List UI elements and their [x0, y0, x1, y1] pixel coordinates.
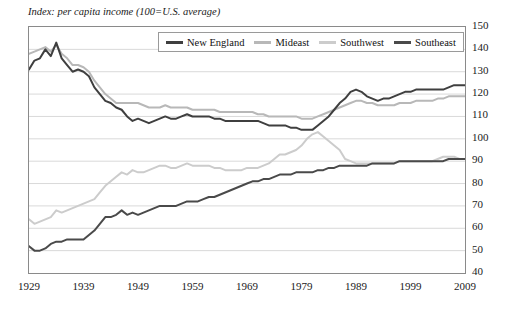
- y-tick-label: 110: [472, 108, 488, 120]
- series-line-mideast: [29, 45, 465, 119]
- legend-entry[interactable]: Mideast: [254, 37, 309, 48]
- legend-entry[interactable]: Southwest: [319, 37, 384, 48]
- x-tick-label: 1979: [291, 280, 313, 292]
- plot-svg: [29, 27, 465, 273]
- series-line-southeast: [29, 159, 465, 251]
- legend-label: Southwest: [340, 37, 384, 48]
- x-tick-label: 1969: [236, 280, 258, 292]
- legend-entry[interactable]: New England: [166, 37, 244, 48]
- x-tick-label: 1939: [73, 280, 95, 292]
- y-tick-label: 130: [472, 64, 489, 76]
- y-tick-label: 100: [472, 131, 489, 143]
- index-note: Index: per capita income (100=U.S. avera…: [28, 6, 220, 17]
- y-tick-label: 40: [472, 265, 483, 277]
- x-tick-label: 1959: [182, 280, 204, 292]
- y-tick-label: 140: [472, 41, 489, 53]
- x-tick-label: 1989: [345, 280, 367, 292]
- legend-entry[interactable]: Southeast: [394, 37, 456, 48]
- y-tick-label: 90: [472, 153, 483, 165]
- y-tick-label: 50: [472, 243, 483, 255]
- legend-swatch-icon: [254, 41, 271, 44]
- legend-swatch-icon: [166, 41, 183, 44]
- x-tick-label: 1949: [127, 280, 149, 292]
- legend-label: Mideast: [275, 37, 309, 48]
- y-tick-label: 60: [472, 220, 483, 232]
- legend-swatch-icon: [319, 41, 336, 44]
- chart-container: Index: per capita income (100=U.S. avera…: [0, 0, 511, 311]
- legend-label: New England: [187, 37, 244, 48]
- x-tick-label: 2009: [454, 280, 476, 292]
- y-tick-label: 80: [472, 176, 483, 188]
- series-line-southwest: [29, 132, 465, 224]
- y-tick-label: 120: [472, 86, 489, 98]
- plot-area: [28, 26, 466, 274]
- legend-label: Southeast: [415, 37, 456, 48]
- x-tick-label: 1999: [400, 280, 422, 292]
- chart-legend: New EnglandMideastSouthwestSoutheast: [158, 32, 464, 52]
- legend-swatch-icon: [394, 41, 411, 44]
- y-tick-label: 70: [472, 198, 483, 210]
- y-tick-label: 150: [472, 19, 489, 31]
- x-tick-label: 1929: [18, 280, 40, 292]
